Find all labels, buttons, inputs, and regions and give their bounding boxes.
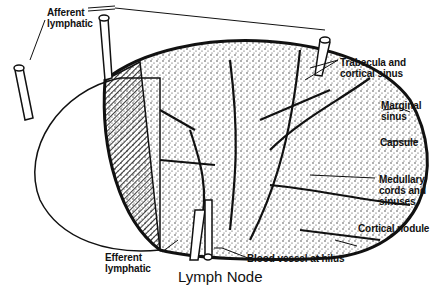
label-cortical-nodule: Cortical nodule (358, 223, 429, 234)
label-capsule: Capsule (380, 137, 418, 148)
label-medullary-cords-sinuses: Medullary cords and sinuses (379, 174, 426, 207)
label-blood-vessel-hilus: Blood vessel at hilus (247, 253, 344, 264)
label-efferent-lymphatic: Efferent lymphatic (105, 252, 151, 274)
lymph-node-diagram: Afferent lymphatic Trabecula and cortica… (0, 0, 443, 296)
diagram-title: Lymph Node (178, 268, 263, 285)
label-afferent-lymphatic: Afferent lymphatic (47, 7, 93, 29)
label-marginal-sinus: Marginal sinus (381, 100, 421, 122)
label-trabecula-cortical-sinus: Trabecula and cortical sinus (340, 57, 406, 79)
lymph-node-illustration (0, 0, 443, 296)
